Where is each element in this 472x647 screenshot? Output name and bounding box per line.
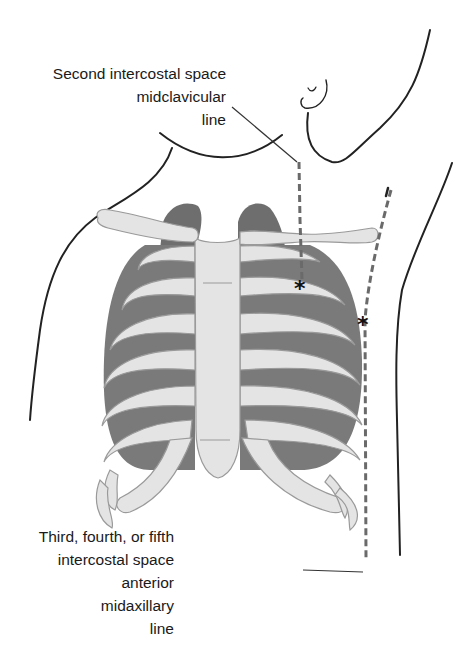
right-torso-outline — [396, 163, 452, 555]
label-line: line — [39, 617, 174, 640]
jaw-outline — [160, 133, 282, 157]
label-line: line — [53, 108, 226, 131]
label-line: intercostal space — [39, 548, 174, 571]
midaxillary-marker: * — [357, 312, 369, 337]
label-line: anterior — [39, 571, 174, 594]
sternum — [195, 238, 240, 478]
midclavicular-label: Second intercostal space midclavicular l… — [53, 62, 226, 131]
right-arm-line — [386, 188, 388, 196]
midclavicular-marker: * — [294, 276, 306, 301]
label-line: Second intercostal space — [53, 62, 226, 85]
label-line: midclavicular — [53, 85, 226, 108]
chin-line — [301, 80, 327, 108]
top-leader-line — [232, 107, 297, 162]
midaxillary-line — [365, 190, 391, 560]
bottom-leader-line — [303, 570, 363, 572]
midaxillary-label: Third, fourth, or fifth intercostal spac… — [39, 525, 174, 640]
label-line: midaxillary — [39, 594, 174, 617]
label-line: Third, fourth, or fifth — [39, 525, 174, 548]
